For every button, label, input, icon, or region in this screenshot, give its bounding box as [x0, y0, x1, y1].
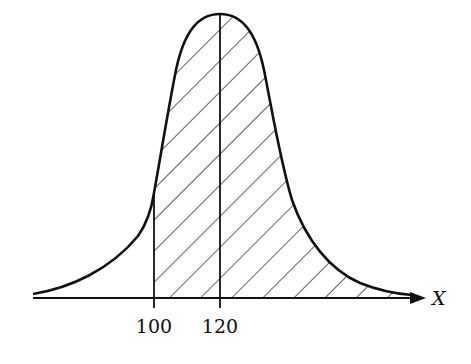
axis-label-x: X — [430, 287, 447, 309]
axis-arrow-icon — [410, 292, 426, 304]
normal-distribution-diagram: 100 120 X — [0, 0, 471, 364]
tick-label-120: 120 — [202, 315, 238, 337]
tick-label-100: 100 — [136, 315, 172, 337]
